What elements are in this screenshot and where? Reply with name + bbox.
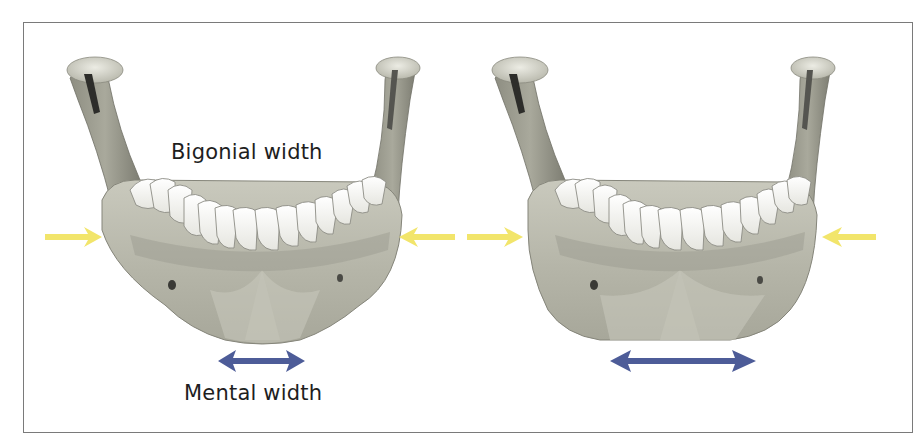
arrow-right-icon <box>45 227 102 247</box>
right-condyle <box>376 57 420 79</box>
arrow-left-icon <box>399 227 455 247</box>
right-mental-foramen <box>337 274 343 282</box>
left-mental-foramen <box>168 280 176 290</box>
double-arrow-long-icon <box>610 350 756 372</box>
right-mandible <box>492 57 835 340</box>
arrow-right-icon <box>467 227 523 247</box>
bigonial-width-label: Bigonial width <box>171 140 323 164</box>
mental-arrows <box>218 350 756 372</box>
mental-width-label: Mental width <box>184 381 322 405</box>
left-mandible <box>67 57 420 344</box>
left-mental-foramen-2 <box>590 280 598 290</box>
left-condyle <box>67 57 123 83</box>
left-condyle-2 <box>492 57 548 83</box>
arrow-left-icon <box>822 227 876 247</box>
right-mental-foramen-2 <box>757 276 763 284</box>
right-condyle-2 <box>791 57 835 79</box>
double-arrow-short-icon <box>218 350 305 372</box>
